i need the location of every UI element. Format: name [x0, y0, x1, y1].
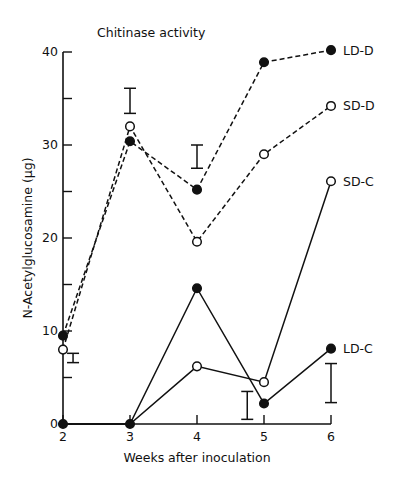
chart-title: Chitinase activity [97, 25, 206, 40]
error-bars [67, 88, 337, 419]
x-tick-label: 3 [126, 429, 134, 444]
x-tick-label: 5 [260, 429, 268, 444]
data-point-sd-d [193, 237, 202, 246]
series-label-sd-c: SD-C [343, 174, 374, 189]
data-point-sd-d [260, 150, 269, 159]
y-tick-label: 30 [42, 137, 58, 152]
x-tick-label: 6 [327, 429, 335, 444]
data-point-sd-c [193, 362, 202, 371]
data-point-ld-c [260, 399, 269, 408]
data-point-ld-c [193, 284, 202, 293]
y-tick-label: 20 [42, 230, 58, 245]
series-line-sd-d [63, 106, 331, 350]
y-tick-label: 0 [50, 416, 58, 431]
chitinase-line-chart: Chitinase activity N-Acetylglucosamine (… [0, 0, 395, 486]
data-point-sd-d [59, 345, 68, 354]
data-point-ld-c [327, 344, 336, 353]
data-point-ld-d [327, 46, 336, 55]
x-tick-label: 2 [59, 429, 67, 444]
series-label-ld-c: LD-C [343, 341, 373, 356]
data-point-sd-c [260, 378, 269, 387]
series-markers [59, 46, 336, 428]
data-point-sd-d [126, 122, 135, 131]
data-point-ld-c [59, 420, 68, 429]
series-labels: LD-DSD-DSD-CLD-C [343, 43, 375, 357]
data-point-ld-d [59, 331, 68, 340]
data-point-ld-d [126, 137, 135, 146]
x-axis-label: Weeks after inoculation [123, 450, 270, 465]
series-line-ld-c [63, 288, 331, 424]
axes: 01020304023456 [42, 44, 335, 444]
data-point-ld-c [126, 420, 135, 429]
data-point-sd-d [327, 102, 336, 111]
y-tick-label: 10 [42, 323, 58, 338]
data-point-ld-d [193, 185, 202, 194]
data-point-ld-d [260, 58, 269, 67]
series-label-ld-d: LD-D [343, 43, 374, 58]
x-tick-label: 4 [193, 429, 201, 444]
y-axis-label: N-Acetylglucosamine (µg) [20, 157, 35, 318]
y-tick-label: 40 [42, 44, 58, 59]
series-label-sd-d: SD-D [343, 98, 375, 113]
data-point-sd-c [327, 177, 336, 186]
